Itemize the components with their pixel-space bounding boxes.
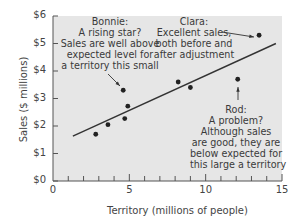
annotation-line: Rod: (190, 104, 282, 115)
annotation-line: Although sales (190, 126, 282, 137)
annotation-line: A problem? (190, 115, 282, 126)
x-tick-label: 0 (43, 184, 63, 195)
annotation-line: after adjustment (148, 49, 240, 60)
annotation-line: below expected for (190, 148, 282, 159)
y-axis-label: Sales ($ millions) (18, 55, 29, 145)
annotation-line: Clara: (148, 16, 240, 27)
annotation-line: this large a territory (190, 159, 282, 170)
data-point (106, 122, 111, 127)
annotation-line: Excellent sales, (148, 27, 240, 38)
y-tick-label: $6 (16, 9, 46, 20)
data-point (188, 85, 193, 90)
annotation-line: a territory this small (52, 60, 168, 71)
data-point (257, 33, 262, 38)
data-point (122, 116, 127, 121)
annotation-line: both before and (148, 38, 240, 49)
data-point (176, 80, 181, 85)
annotation-rod: Rod:A problem?Although salesare good, th… (190, 104, 282, 170)
data-point (93, 132, 98, 137)
annotation-line: are good, they are (190, 137, 282, 148)
data-point (235, 77, 240, 82)
annotation-clara: Clara:Excellent sales,both before andaft… (148, 16, 240, 60)
y-tick-label: $1 (16, 147, 46, 158)
y-tick-label: $0 (16, 174, 46, 185)
x-axis-label: Territory (millions of people) (107, 205, 248, 216)
x-tick-label: 10 (196, 184, 216, 195)
x-tick-label: 5 (119, 184, 139, 195)
x-tick-label: 15 (272, 184, 292, 195)
data-point (125, 104, 130, 109)
data-point (121, 88, 126, 93)
y-tick-label: $5 (16, 37, 46, 48)
